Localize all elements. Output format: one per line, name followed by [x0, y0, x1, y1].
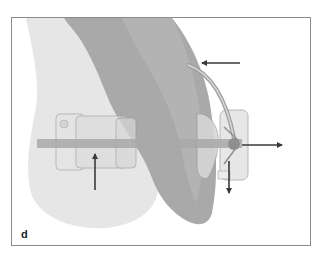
diagram-canvas [12, 18, 311, 246]
figure-panel: d [11, 17, 311, 246]
panel-label: d [21, 228, 28, 240]
archwire [37, 139, 242, 148]
wire-hook-ball [228, 138, 240, 150]
